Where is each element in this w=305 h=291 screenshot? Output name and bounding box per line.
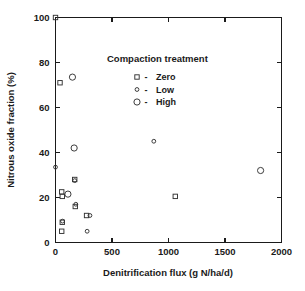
- x-tick-label: 1000: [158, 246, 179, 257]
- y-tick-label: 0: [44, 237, 49, 248]
- y-axis-title: Nitrous oxide fraction (%): [5, 72, 16, 188]
- legend-separator: -: [145, 85, 148, 95]
- x-tick-label: 2000: [271, 246, 292, 257]
- x-axis-title: Denitrification flux (g N/ha/d): [103, 267, 233, 278]
- data-point-circle-large: [257, 167, 263, 173]
- series-zero: [53, 15, 177, 233]
- data-point-square: [173, 194, 177, 198]
- data-point-square: [60, 190, 64, 194]
- data-point-circle-small: [152, 139, 156, 143]
- scatter-chart-figure: 0500100015002000020406080100 Compaction …: [0, 0, 305, 291]
- legend-label-zero: Zero: [156, 72, 176, 82]
- plot-frame: [56, 18, 282, 243]
- legend-title: Compaction treatment: [107, 53, 209, 64]
- data-point-square: [60, 229, 64, 233]
- legend-marker-high-circle-large: [134, 99, 140, 105]
- y-tick-label: 40: [39, 147, 50, 158]
- data-point-circle-small: [85, 229, 89, 233]
- x-tick-label: 0: [53, 246, 58, 257]
- x-tick-label: 500: [104, 246, 120, 257]
- data-point-circle-large: [69, 74, 75, 80]
- data-point-circle-large: [65, 191, 71, 197]
- y-tick-label: 100: [34, 12, 50, 23]
- legend-label-low: Low: [156, 85, 175, 95]
- x-tick-label: 1500: [214, 246, 235, 257]
- legend-separator: -: [145, 97, 148, 107]
- chart-canvas: 0500100015002000020406080100 Compaction …: [0, 0, 305, 291]
- y-tick-label: 20: [39, 192, 50, 203]
- y-tick-label: 60: [39, 102, 50, 113]
- y-tick-label: 80: [39, 57, 50, 68]
- series-low: [54, 139, 156, 233]
- data-point-circle-large: [71, 145, 77, 151]
- data-points-group: [53, 15, 263, 233]
- legend-label-high: High: [156, 97, 176, 107]
- data-point-square: [58, 81, 62, 85]
- legend-separator: -: [145, 72, 148, 82]
- tick-labels-group: 0500100015002000020406080100: [34, 12, 292, 257]
- axes-group: [56, 18, 282, 243]
- data-point-square: [60, 194, 64, 198]
- ticks-group: [56, 18, 282, 243]
- legend-marker-zero-square: [135, 75, 139, 79]
- chart-legend: Compaction treatment-Zero-Low-High: [107, 53, 209, 107]
- legend-marker-low-circle-small: [135, 88, 139, 92]
